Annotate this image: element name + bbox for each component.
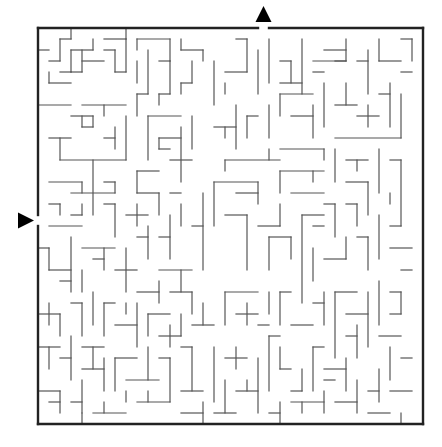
exit-arrow-up-icon	[256, 6, 272, 22]
entrance-arrow-right-icon	[18, 213, 34, 229]
maze-walls	[38, 28, 412, 424]
maze-board	[0, 0, 442, 447]
maze-frame	[38, 28, 423, 424]
